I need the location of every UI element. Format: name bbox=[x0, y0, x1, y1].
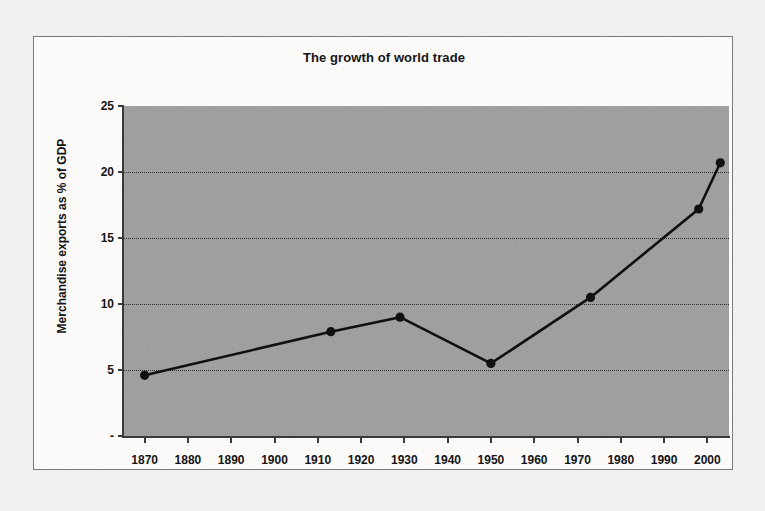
data-point-marker bbox=[326, 327, 335, 336]
y-tick-label: 10 bbox=[101, 297, 114, 311]
x-tick-label: 1990 bbox=[651, 453, 678, 467]
y-tick-label: 25 bbox=[101, 99, 114, 113]
data-point-marker bbox=[694, 204, 703, 213]
data-series-line bbox=[123, 106, 729, 436]
y-tick-label: 20 bbox=[101, 165, 114, 179]
data-point-marker bbox=[140, 371, 149, 380]
y-axis-title: Merchandise exports as % of GDP bbox=[55, 106, 69, 366]
x-tick-label: 1960 bbox=[521, 453, 548, 467]
x-axis-line bbox=[122, 436, 730, 438]
y-tick-label: - bbox=[110, 429, 114, 443]
series-polyline bbox=[145, 163, 721, 375]
x-tick-label: 1880 bbox=[175, 453, 202, 467]
y-tick-label: 5 bbox=[107, 363, 114, 377]
x-tick-label: 1940 bbox=[434, 453, 461, 467]
plot-area: -510152025 18701880189019001910192019301… bbox=[123, 106, 729, 436]
x-tick-label: 1900 bbox=[261, 453, 288, 467]
chart-title: The growth of world trade bbox=[34, 50, 734, 65]
x-tick-label: 1870 bbox=[131, 453, 158, 467]
y-tick-label: 15 bbox=[101, 231, 114, 245]
x-tick-label: 1950 bbox=[478, 453, 505, 467]
data-point-marker bbox=[486, 359, 495, 368]
x-tick-label: 1920 bbox=[348, 453, 375, 467]
x-tick-label: 2000 bbox=[694, 453, 721, 467]
x-tick-label: 1890 bbox=[218, 453, 245, 467]
x-tick-label: 1980 bbox=[607, 453, 634, 467]
data-point-marker bbox=[716, 158, 725, 167]
data-point-marker bbox=[586, 293, 595, 302]
x-tick-label: 1910 bbox=[304, 453, 331, 467]
x-tick-label: 1930 bbox=[391, 453, 418, 467]
data-point-marker bbox=[395, 313, 404, 322]
chart-frame: The growth of world trade Merchandise ex… bbox=[33, 36, 733, 470]
x-tick-label: 1970 bbox=[564, 453, 591, 467]
